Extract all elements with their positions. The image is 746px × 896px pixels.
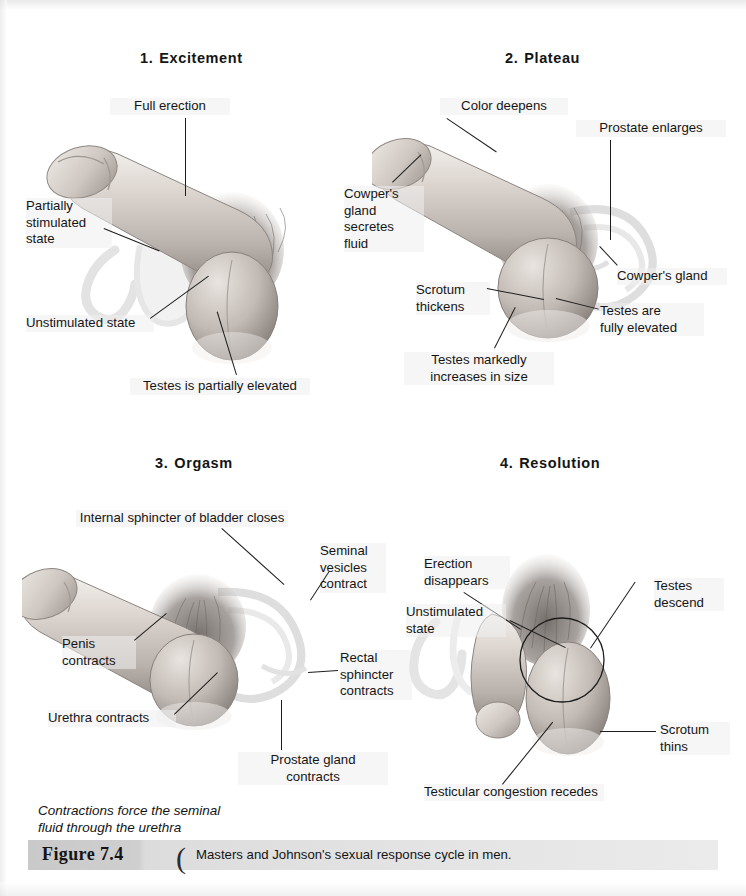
panel-1-name: Excitement xyxy=(159,50,242,66)
leader-full-erection xyxy=(185,118,186,196)
figure-caption-text: Masters and Johnson's sexual response cy… xyxy=(196,847,512,862)
label-testes-partially-elevated: Testes is partially elevated xyxy=(130,378,310,395)
scan-edge-top xyxy=(0,0,746,10)
label-prostate-enlarges: Prostate enlarges xyxy=(576,120,726,137)
leader-scrotum-thins xyxy=(600,731,656,732)
running-caption: Contractions force the seminal fluid thr… xyxy=(38,802,220,836)
label-urethra-contracts: Urethra contracts xyxy=(48,710,176,727)
label-prostate-gland-contracts: Prostate gland contracts xyxy=(238,752,388,785)
panel-4-number: 4. xyxy=(500,455,513,471)
label-penis-contracts: Penis contracts xyxy=(62,636,136,669)
figure-caption-bar: Figure 7.4 ( Masters and Johnson's sexua… xyxy=(28,840,718,870)
panel-1-number: 1. xyxy=(140,50,153,66)
panel-3-title: 3.Orgasm xyxy=(155,455,233,471)
panel-3-number: 3. xyxy=(155,455,168,471)
label-scrotum-thickens: Scrotum thickens xyxy=(416,282,490,315)
label-partially-stimulated-state: Partially stimulated state xyxy=(26,198,112,248)
leader-prostate-gland-contracts xyxy=(281,700,282,750)
figure-number: Figure 7.4 xyxy=(42,844,124,865)
panel-2-title: 2.Plateau xyxy=(505,50,580,66)
label-testicular-congestion-recedes: Testicular congestion recedes xyxy=(424,784,604,801)
label-color-deepens: Color deepens xyxy=(440,98,568,115)
label-full-erection: Full erection xyxy=(110,98,230,115)
label-cowpers-gland: Cowper's gland xyxy=(617,268,727,285)
label-scrotum-thins: Scrotum thins xyxy=(660,722,730,755)
label-internal-sphincter-closes: Internal sphincter of bladder closes xyxy=(76,510,288,527)
label-erection-disappears: Erection disappears xyxy=(424,556,510,589)
panel-4-title: 4.Resolution xyxy=(500,455,600,471)
panel-2-number: 2. xyxy=(505,50,518,66)
panel-2-artwork xyxy=(372,108,722,388)
panel-4-name: Resolution xyxy=(519,455,600,471)
label-seminal-vesicles-contract: Seminal vesicles contract xyxy=(320,543,386,593)
panel-3-name: Orgasm xyxy=(174,455,232,471)
label-testes-descend: Testes descend xyxy=(654,578,724,611)
figure-page: 1.Excitement xyxy=(0,0,746,896)
figure-paren-icon: ( xyxy=(176,841,186,875)
scan-edge-left xyxy=(0,0,7,896)
label-unstimulated-state: Unstimulated state xyxy=(26,315,154,332)
label-unstimulated-state-resolution: Unstimulated state xyxy=(406,604,506,637)
label-testes-fully-elevated: Testes are fully elevated xyxy=(600,303,704,336)
panel-1-title: 1.Excitement xyxy=(140,50,243,66)
scan-edge-bottom xyxy=(0,882,746,896)
leader-prostate-enlarges xyxy=(610,140,611,240)
label-testes-markedly-increases: Testes markedly increases in size xyxy=(404,352,554,385)
label-cowpers-gland-secretes-fluid: Cowper's gland secretes fluid xyxy=(344,186,424,252)
panel-2-name: Plateau xyxy=(524,50,580,66)
